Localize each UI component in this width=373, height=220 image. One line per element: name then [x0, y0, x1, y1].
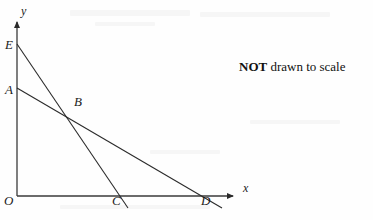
line-segment-AD — [17, 88, 222, 208]
diagram-canvas: y x O E A B C D NOT drawn to scale — [0, 0, 373, 220]
x-axis-label: x — [243, 182, 248, 194]
point-label-D: D — [201, 194, 210, 207]
point-label-C: C — [112, 194, 121, 207]
not-drawn-to-scale-note: NOT drawn to scale — [239, 60, 346, 75]
point-label-A: A — [5, 83, 13, 96]
point-label-O: O — [4, 194, 13, 207]
line-segment-EC — [17, 44, 128, 208]
geometry-figure — [0, 0, 373, 220]
note-emphasis: NOT — [239, 59, 267, 74]
y-axis-label: y — [21, 5, 26, 17]
point-label-B: B — [74, 95, 82, 108]
note-rest: drawn to scale — [267, 59, 345, 74]
point-label-E: E — [5, 38, 13, 51]
